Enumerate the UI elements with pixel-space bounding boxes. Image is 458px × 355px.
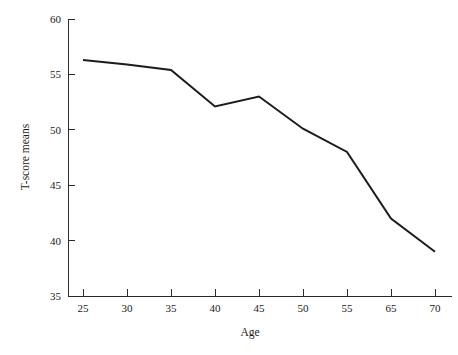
y-tick-label: 45: [50, 179, 62, 191]
chart-container: 354045505560 253035404550556570 Age T-sc…: [0, 0, 458, 355]
y-axis-title: T-score means: [19, 123, 31, 190]
x-tick-label: 45: [254, 302, 266, 314]
x-tick-label: 25: [78, 302, 90, 314]
chart-axes: [68, 19, 452, 296]
x-tick-label: 50: [298, 302, 310, 314]
y-tick-label: 50: [50, 124, 62, 136]
x-tick-label: 30: [122, 302, 134, 314]
y-tick-label: 35: [50, 290, 62, 302]
x-axis-ticks: 253035404550556570: [78, 289, 442, 314]
x-axis-title: Age: [240, 326, 259, 339]
axis-frame: [68, 19, 452, 296]
x-tick-label: 70: [430, 302, 442, 314]
line-chart: 354045505560 253035404550556570 Age T-sc…: [0, 0, 458, 355]
x-tick-label: 35: [166, 302, 178, 314]
series-line-t-score-means: [83, 60, 435, 252]
x-tick-label: 55: [342, 302, 354, 314]
y-tick-label: 60: [50, 13, 62, 25]
x-tick-label: 65: [386, 302, 398, 314]
x-tick-label: 40: [210, 302, 222, 314]
series-group: [83, 60, 435, 252]
y-tick-label: 55: [50, 68, 62, 80]
y-axis-ticks: 354045505560: [50, 13, 75, 302]
y-tick-label: 40: [50, 235, 62, 247]
